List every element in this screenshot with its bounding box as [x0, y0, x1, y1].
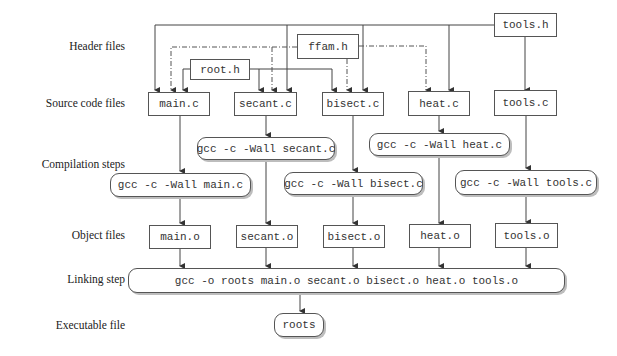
- executable-file-roots: roots: [274, 313, 324, 337]
- object-file-bisect-o: bisect.o: [323, 225, 385, 248]
- source-file-main-c: main.c: [148, 92, 210, 116]
- compile-step-secant: gcc -c -Wall secant.c: [197, 137, 335, 160]
- header-file-tools-h: tools.h: [494, 13, 557, 37]
- header-file-root-h: root.h: [190, 59, 250, 80]
- source-file-tools-c: tools.c: [494, 90, 557, 116]
- linking-step: gcc -o roots main.o secant.o bisect.o he…: [128, 268, 565, 293]
- source-file-secant-c: secant.c: [234, 92, 297, 116]
- header-file-ffam-h: ffam.h: [297, 34, 359, 59]
- compile-step-tools: gcc -c -Wall tools.c: [455, 170, 597, 195]
- object-file-main-o: main.o: [149, 225, 211, 249]
- object-file-secant-o: secant.o: [236, 225, 298, 248]
- source-file-heat-c: heat.c: [408, 91, 470, 116]
- source-file-bisect-c: bisect.c: [322, 92, 384, 116]
- object-file-heat-o: heat.o: [409, 224, 471, 248]
- object-file-tools-o: tools.o: [495, 223, 558, 248]
- compile-step-main: gcc -c -Wall main.c: [110, 173, 251, 197]
- compile-step-bisect: gcc -c -Wall bisect.c: [284, 172, 423, 195]
- compile-step-heat: gcc -c -Wall heat.c: [369, 133, 510, 156]
